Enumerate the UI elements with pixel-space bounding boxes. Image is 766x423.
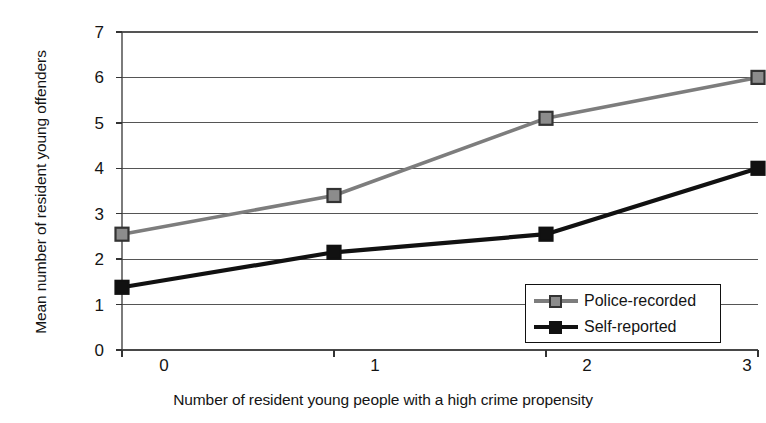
legend-label-police-recorded: Police-recorded: [578, 293, 696, 309]
data-point-marker: [116, 228, 129, 241]
legend-label-self-reported: Self-reported: [578, 319, 677, 335]
series-self-reported: [116, 162, 765, 294]
data-point-marker: [116, 281, 129, 294]
data-point-marker: [752, 71, 765, 84]
series-police-recorded: [116, 71, 765, 241]
data-point-marker: [328, 246, 341, 259]
x-axis-ticks: [122, 350, 758, 357]
series-line: [122, 168, 758, 287]
chart-figure: Mean number of resident young offenders …: [0, 0, 766, 423]
legend-swatch-self-reported: [534, 318, 578, 336]
series-line: [122, 77, 758, 234]
y-axis-ticks: [116, 32, 122, 350]
plot-area: [0, 0, 766, 423]
data-point-marker: [540, 112, 553, 125]
legend: Police-recorded Self-reported: [525, 284, 721, 343]
legend-entry-self-reported: Self-reported: [534, 315, 677, 339]
data-point-marker: [540, 228, 553, 241]
legend-swatch-police-recorded: [534, 292, 578, 310]
data-point-marker: [752, 162, 765, 175]
data-point-marker: [328, 189, 341, 202]
data-series-layer: [116, 71, 765, 294]
legend-entry-police-recorded: Police-recorded: [534, 289, 696, 313]
